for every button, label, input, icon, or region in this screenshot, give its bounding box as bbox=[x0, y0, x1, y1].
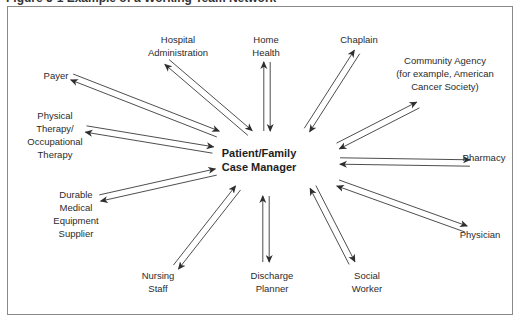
node-label-line: Social bbox=[352, 269, 382, 282]
node-social-worker: Social Worker bbox=[352, 269, 382, 295]
arrow-to-center-from-physical-occupational-therapy bbox=[87, 126, 214, 147]
arrow-to-hospital-administration bbox=[165, 64, 248, 135]
node-label-line: (for example, American bbox=[396, 67, 494, 80]
node-label-line: Administration bbox=[148, 46, 208, 59]
center-line-2: Case Manager bbox=[222, 160, 297, 174]
arrow-pair-social-worker bbox=[310, 186, 355, 265]
center-line-1: Patient/Family bbox=[222, 146, 297, 160]
node-discharge-planner: Discharge Planner bbox=[251, 269, 294, 295]
arrow-to-center-from-payer bbox=[73, 74, 219, 131]
node-home-health: Home Health bbox=[252, 33, 279, 59]
arrow-pair-chaplain bbox=[304, 50, 359, 131]
arrow-to-social-worker bbox=[316, 186, 355, 262]
node-label-line: Physician bbox=[460, 228, 501, 241]
arrow-to-center-from-community-agency bbox=[339, 108, 419, 149]
node-label-line: Community Agency bbox=[396, 54, 494, 67]
arrow-to-center-from-pharmacy bbox=[340, 164, 470, 166]
node-label-line: Occupational bbox=[27, 135, 82, 148]
node-label-line: Home bbox=[252, 33, 279, 46]
node-label-line: Planner bbox=[251, 282, 294, 295]
node-label-line: Medical bbox=[53, 201, 98, 214]
node-label-line: Worker bbox=[352, 282, 382, 295]
node-label-line: Physical bbox=[27, 109, 82, 122]
node-payer: Payer bbox=[44, 69, 69, 82]
node-community-agency: Community Agency (for example, American … bbox=[396, 54, 494, 93]
arrow-pair-physician bbox=[337, 180, 467, 232]
arrow-to-physical-occupational-therapy bbox=[85, 132, 212, 153]
arrow-to-pharmacy bbox=[340, 158, 470, 160]
node-hospital-administration: Hospital Administration bbox=[148, 33, 208, 59]
arrow-pair-nursing-staff bbox=[173, 186, 240, 269]
arrow-pair-discharge-planner bbox=[263, 196, 269, 262]
arrow-to-payer bbox=[71, 80, 217, 137]
node-label-line: Staff bbox=[142, 282, 175, 295]
arrow-to-center-from-nursing-staff bbox=[173, 186, 235, 265]
node-label-line: Therapy bbox=[27, 148, 82, 161]
node-label-line: Discharge bbox=[251, 269, 294, 282]
arrow-pair-physical-occupational-therapy bbox=[85, 126, 213, 153]
arrow-pair-durable-medical-equipment-supplier bbox=[99, 169, 216, 201]
arrow-to-community-agency bbox=[337, 102, 417, 143]
arrow-pair-home-health bbox=[264, 62, 270, 131]
node-pharmacy: Pharmacy bbox=[463, 151, 506, 164]
node-physician: Physician bbox=[460, 228, 501, 241]
node-chaplain: Chaplain bbox=[340, 33, 378, 46]
node-durable-medical-equipment-supplier: Durable Medical Equipment Supplier bbox=[53, 188, 98, 240]
node-label-line: Hospital bbox=[148, 33, 208, 46]
node-label-line: Pharmacy bbox=[463, 151, 506, 164]
arrow-pair-hospital-administration bbox=[165, 60, 252, 136]
arrow-pair-pharmacy bbox=[340, 158, 470, 166]
node-label-line: Equipment bbox=[53, 214, 98, 227]
arrow-to-center-from-durable-medical-equipment-supplier bbox=[99, 169, 215, 195]
node-label-line: Therapy/ bbox=[27, 122, 82, 135]
arrow-to-center-from-physician bbox=[337, 186, 465, 232]
node-physical-occupational-therapy: Physical Therapy/ Occupational Therapy bbox=[27, 109, 82, 161]
node-label-line: Chaplain bbox=[340, 33, 378, 46]
arrow-to-center-from-chaplain bbox=[310, 54, 360, 132]
arrow-pair-community-agency bbox=[337, 102, 420, 149]
arrow-to-center-from-social-worker bbox=[310, 188, 349, 264]
arrow-to-chaplain bbox=[304, 50, 354, 128]
arrow-to-nursing-staff bbox=[179, 190, 241, 269]
arrow-to-physician bbox=[339, 180, 467, 226]
arrow-to-durable-medical-equipment-supplier bbox=[101, 175, 217, 201]
node-nursing-staff: Nursing Staff bbox=[142, 269, 175, 295]
node-label-line: Health bbox=[252, 46, 279, 59]
node-label-line: Cancer Society) bbox=[396, 80, 494, 93]
center-node-case-manager: Patient/Family Case Manager bbox=[222, 146, 297, 174]
node-label-line: Supplier bbox=[53, 227, 98, 240]
node-label-line: Nursing bbox=[142, 269, 175, 282]
node-label-line: Payer bbox=[44, 69, 69, 82]
node-label-line: Durable bbox=[53, 188, 98, 201]
arrow-to-center-from-hospital-administration bbox=[169, 60, 252, 131]
